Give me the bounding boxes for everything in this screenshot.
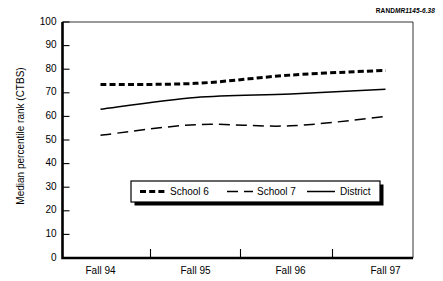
y-axis-tick-label: 90: [45, 39, 57, 50]
x-axis-tick-label: Fall 96: [275, 265, 305, 276]
y-axis-tick-label: 60: [45, 110, 57, 121]
y-axis-tick-label: 40: [45, 157, 57, 168]
y-axis-tick-label: 30: [45, 181, 57, 192]
series-line-school-6: [101, 70, 386, 84]
x-axis-tick-label: Fall 95: [180, 265, 210, 276]
x-axis-tick-label: Fall 97: [370, 265, 400, 276]
y-axis-tick-label: 50: [45, 134, 57, 145]
series-line-school-7: [101, 116, 386, 135]
y-axis-tick-label: 70: [45, 86, 57, 97]
x-axis-tick-label: Fall 94: [85, 265, 115, 276]
y-axis-tick-label: 10: [45, 228, 57, 239]
y-axis-tick-label: 100: [40, 16, 57, 27]
legend-label-school-7: School 7: [257, 186, 296, 197]
legend-label-school-6: School 6: [170, 186, 209, 197]
y-axis-tick-label: 0: [51, 252, 57, 263]
y-axis-tick-label: 80: [45, 63, 57, 74]
chart-figure: RANDMR1145-6.38 Median percentile rank (…: [0, 0, 443, 281]
legend-label-district: District: [340, 186, 371, 197]
y-axis-tick-label: 20: [45, 204, 57, 215]
plot-box-outline: [63, 22, 414, 258]
line-chart-plot: 0102030405060708090100Fall 94Fall 95Fall…: [0, 0, 443, 281]
axis-frame: [63, 22, 414, 258]
series-line-district: [101, 89, 386, 109]
